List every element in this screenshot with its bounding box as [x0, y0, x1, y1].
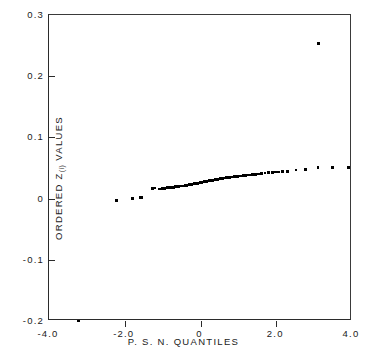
- data-point: [140, 196, 143, 199]
- data-point: [131, 197, 134, 200]
- data-point: [347, 166, 350, 169]
- y-axis-title-container: ORDERED Z(i) VALUES: [0, 0, 24, 355]
- x-axis-title: P. S. N. QUANTILES: [0, 336, 367, 347]
- data-point: [317, 42, 320, 45]
- data-point: [317, 166, 320, 169]
- qq-plot-figure: ORDERED Z(i) VALUES 0.30.20.10-0.1-0.2 -…: [0, 0, 367, 355]
- x-tick-mark: [201, 321, 202, 327]
- data-point: [281, 170, 284, 173]
- data-point: [267, 171, 270, 174]
- y-tick-label: 0.2: [20, 70, 44, 81]
- data-point: [260, 172, 263, 175]
- data-point: [295, 169, 298, 172]
- data-point: [77, 320, 80, 323]
- data-point: [277, 171, 280, 174]
- y-tick-label: -0.2: [20, 315, 44, 326]
- data-point: [154, 187, 157, 190]
- data-point: [286, 170, 289, 173]
- data-point: [264, 172, 267, 175]
- y-tick-label: 0.3: [20, 9, 44, 20]
- y-tick-label: 0: [20, 192, 44, 203]
- scatter-data-layer: [49, 15, 350, 319]
- data-point: [331, 166, 334, 169]
- plot-frame: [48, 14, 351, 320]
- y-tick-label: 0.1: [20, 131, 44, 142]
- x-tick-mark: [276, 321, 277, 327]
- x-tick-mark: [125, 321, 126, 327]
- y-tick-label: -0.1: [20, 253, 44, 264]
- data-point: [304, 168, 307, 171]
- data-point: [115, 199, 118, 202]
